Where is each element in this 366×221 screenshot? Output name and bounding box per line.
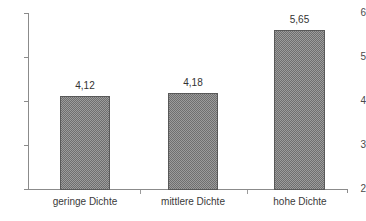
category-label-mittlere-dichte: mittlere Dichte [143,196,243,208]
bar-mittlere-dichte[interactable] [168,93,218,190]
y-axis-line [28,13,29,190]
x-tick-1 [140,190,141,194]
value-label-geringe-dichte: 4,12 [60,80,110,91]
category-label-hohe-dichte: hohe Dichte [250,196,350,208]
y-tick-label-3: 3 [344,140,366,150]
category-label-geringe-dichte: geringe Dichte [35,196,135,208]
bar-geringe-dichte[interactable] [60,96,110,190]
bar-hohe-dichte[interactable] [274,30,325,190]
bar-chart: 6 5 4 3 2 4,12 4,18 5,65 geringe Dichte … [0,0,366,221]
y-tick-6 [24,13,28,14]
y-tick-2 [24,189,28,190]
y-tick-5 [24,57,28,58]
x-tick-2 [247,190,248,194]
y-tick-label-2: 2 [344,184,366,194]
value-label-mittlere-dichte: 4,18 [168,77,218,88]
y-tick-3 [24,145,28,146]
value-label-hohe-dichte: 5,65 [274,14,325,25]
y-tick-label-6: 6 [344,8,366,18]
y-tick-label-4: 4 [344,96,366,106]
y-tick-label-5: 5 [344,52,366,62]
y-tick-4 [24,101,28,102]
